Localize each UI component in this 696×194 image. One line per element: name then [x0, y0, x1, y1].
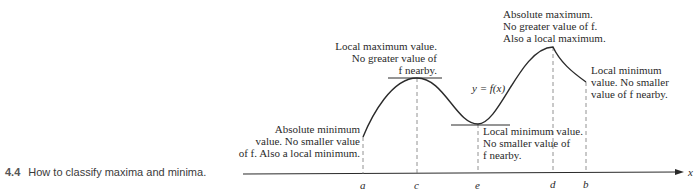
- svg-text:No smaller value of: No smaller value of: [483, 137, 570, 149]
- local-min-e-annotation: Local minimum value. No smaller value of…: [483, 125, 583, 161]
- tick-labels: a c e d b: [360, 178, 589, 191]
- abs-max-annotation: Absolute maximum. No greater value of f.…: [503, 8, 606, 44]
- tick-a: a: [360, 179, 366, 191]
- svg-text:Absolute maximum.: Absolute maximum.: [503, 8, 593, 20]
- tick-c: c: [414, 179, 419, 191]
- svg-text:No greater value of: No greater value of: [352, 52, 438, 64]
- svg-text:Local minimum: Local minimum: [591, 64, 662, 76]
- svg-text:Also a local maximum.: Also a local maximum.: [503, 32, 606, 44]
- extrema-diagram: x a c e d b y = f(x) Absolute minimum va…: [0, 0, 696, 194]
- svg-text:No greater value of f.: No greater value of f.: [503, 20, 598, 32]
- svg-text:of f. Also a local minimum.: of f. Also a local minimum.: [239, 147, 361, 159]
- abs-min-annotation: Absolute minimum value. No smaller value…: [239, 123, 361, 159]
- tick-d: d: [550, 178, 556, 190]
- svg-text:value of f nearby.: value of f nearby.: [591, 88, 668, 100]
- local-max-annotation: Local maximum value. No greater value of…: [335, 40, 437, 76]
- svg-text:value. No smaller: value. No smaller: [591, 76, 669, 88]
- svg-text:Local maximum value.: Local maximum value.: [335, 40, 437, 52]
- svg-text:value. No smaller value: value. No smaller value: [256, 135, 361, 147]
- dashed-guides: [363, 47, 586, 174]
- tick-b: b: [583, 178, 589, 190]
- svg-text:f nearby.: f nearby.: [399, 64, 438, 76]
- x-axis-label: x: [687, 166, 693, 178]
- svg-text:f nearby.: f nearby.: [483, 149, 522, 161]
- tick-e: e: [475, 179, 480, 191]
- x-axis: [243, 172, 678, 174]
- axis-arrow-icon: [675, 169, 684, 175]
- svg-text:Absolute minimum: Absolute minimum: [275, 123, 361, 135]
- local-min-b-annotation: Local minimum value. No smaller value of…: [591, 64, 669, 100]
- curve-label: y = f(x): [471, 82, 505, 95]
- svg-text:Local minimum value.: Local minimum value.: [483, 125, 583, 137]
